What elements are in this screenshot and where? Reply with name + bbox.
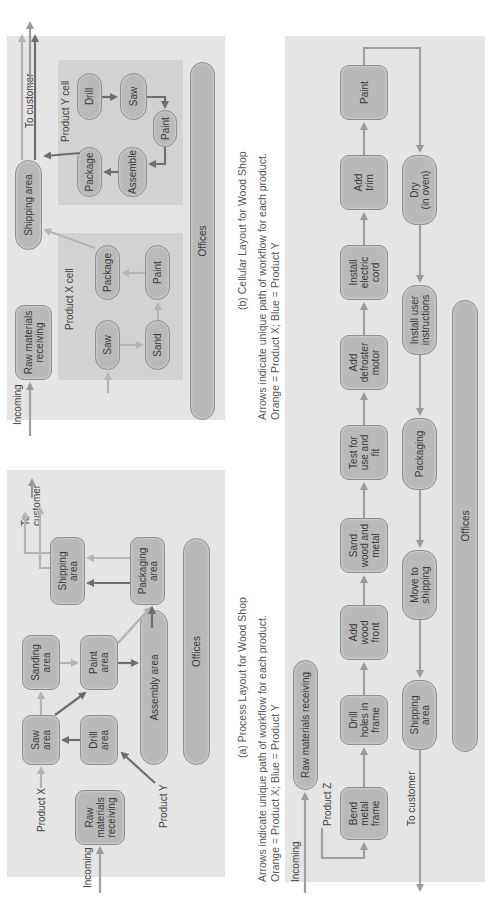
c-to-customer-label: To customer bbox=[406, 772, 417, 826]
a-saw-area-node: Saw area bbox=[22, 715, 60, 765]
b-x-saw-node: Saw bbox=[95, 320, 120, 370]
c-paint-node: Paint bbox=[340, 65, 388, 120]
b-y-paint-node: Paint bbox=[153, 110, 177, 147]
c-move-to-shipping-node: Move to shipping bbox=[402, 550, 437, 620]
b-raw-materials-node: Raw materials receiving bbox=[15, 305, 52, 380]
c-raw-materials-node: Raw materials receiving bbox=[293, 660, 318, 790]
b-x-sand-node: Sand bbox=[145, 320, 170, 370]
a-paint-area-node: Paint area bbox=[80, 635, 118, 690]
a-product-x-label: Product X bbox=[36, 788, 47, 832]
c-incoming-label: Incoming bbox=[290, 841, 301, 882]
b-x-paint-node: Paint bbox=[145, 245, 170, 300]
b-offices-node: Offices bbox=[190, 62, 215, 420]
c-test-node: Test for use and fit bbox=[340, 425, 388, 480]
a-assembly-area-node: Assembly area bbox=[140, 610, 168, 765]
a-incoming-label: Incoming bbox=[82, 847, 93, 888]
a-raw-materials-node: Raw materials receiving bbox=[75, 790, 125, 845]
c-add-wood-front-node: Add wood front bbox=[340, 605, 388, 660]
b-incoming-label: Incoming bbox=[12, 384, 23, 425]
c-instructions-node: Install user instructions bbox=[402, 285, 437, 355]
a-caption: (a) Process Layout for Wood Shop bbox=[236, 597, 248, 758]
c-sand-node: Sand wood and metal bbox=[340, 518, 388, 573]
b-cell-y-label: Product Y cell bbox=[60, 81, 71, 142]
c-bend-frame-node: Bend metal frame bbox=[340, 787, 388, 840]
rotated-diagram-canvas: Raw materials receiving Saw area Drill a… bbox=[0, 0, 494, 898]
c-packaging-node: Packaging bbox=[402, 418, 437, 490]
a-drill-area-node: Drill area bbox=[80, 715, 118, 765]
c-shipping-area-node: Shipping area bbox=[402, 680, 437, 750]
c-electric-cord-node: Install electric cord bbox=[340, 245, 388, 300]
b-y-assemble-node: Assemble bbox=[118, 147, 147, 197]
b-x-package-node: Package bbox=[95, 245, 120, 300]
b-to-customer-label: To customer bbox=[24, 74, 35, 128]
c-add-trim-node: Add trim bbox=[340, 155, 388, 210]
b-cell-x-label: Product X cell bbox=[64, 268, 75, 330]
a-to-customer-label: To customer bbox=[20, 485, 42, 526]
a-offices-node: Offices bbox=[183, 538, 210, 765]
b-shipping-area-node: Shipping area bbox=[15, 160, 42, 250]
b-caption: (b) Cellular Layout for Wood Shop bbox=[236, 151, 248, 310]
a-product-y-label: Product Y bbox=[158, 784, 169, 828]
b-y-saw-node: Saw bbox=[120, 73, 147, 120]
b-y-package-node: Package bbox=[77, 147, 102, 197]
a-shipping-area-node: Shipping area bbox=[50, 537, 85, 605]
a-packaging-area-node: Packaging area bbox=[130, 537, 165, 605]
c-dry-node: Dry (in oven) bbox=[402, 155, 437, 225]
b-y-drill-node: Drill bbox=[77, 73, 102, 120]
a-sanding-area-node: Sanding area bbox=[22, 635, 60, 690]
b-legend-note: Arrows indicate unique path of workflow … bbox=[256, 153, 282, 420]
c-product-z-label: Product Z bbox=[322, 783, 333, 826]
c-offices-node: Offices bbox=[452, 300, 478, 752]
c-defroster-node: Add defroster motor bbox=[340, 335, 388, 390]
a-legend-note: Arrows indicate unique path of workflow … bbox=[256, 615, 282, 882]
c-drill-holes-node: Drill holes in frame bbox=[340, 695, 388, 745]
